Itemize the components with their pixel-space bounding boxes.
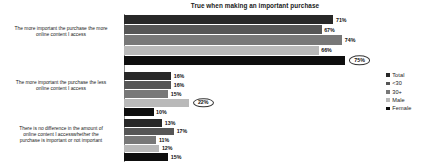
- legend-label: <30: [392, 80, 402, 86]
- category-label: There is no difference in the amount ofo…: [2, 126, 120, 145]
- bar-30-2[interactable]: [124, 128, 174, 136]
- bar-30-0[interactable]: [124, 35, 342, 44]
- legend-swatch-icon: [386, 107, 390, 111]
- bar-30-1[interactable]: [124, 81, 171, 89]
- bar-chart: True when making an important purchase 7…: [0, 0, 435, 168]
- legend-item-30[interactable]: <30: [386, 79, 434, 87]
- bar-value-label: 17%: [177, 128, 188, 134]
- bar-row: 12%: [124, 145, 374, 153]
- legend-label: Total: [392, 72, 404, 78]
- legend-swatch-icon: [386, 98, 390, 102]
- bar-row: 74%: [124, 35, 374, 44]
- bar-value-label: 67%: [324, 27, 335, 33]
- bar-row: 13%: [124, 119, 374, 127]
- bar-row: 75%: [124, 56, 374, 65]
- bar-row: 11%: [124, 136, 374, 144]
- legend-swatch-icon: [386, 82, 390, 86]
- bar-value-label: 16%: [174, 82, 185, 88]
- bar-30-1[interactable]: [124, 90, 168, 98]
- bar-male-0[interactable]: [124, 46, 319, 55]
- chart-legend: Total<3030+MaleFemale: [386, 71, 434, 112]
- bar-row: 15%: [124, 90, 374, 98]
- legend-label: 30+: [392, 89, 402, 95]
- bar-row: 16%: [124, 81, 374, 89]
- legend-item-female[interactable]: Female: [386, 104, 434, 112]
- bar-row: 15%: [124, 153, 374, 161]
- bar-value-label: 11%: [159, 137, 169, 143]
- bar-male-1[interactable]: [124, 99, 189, 107]
- bar-female-0[interactable]: [124, 56, 345, 65]
- bar-female-2[interactable]: [124, 153, 168, 161]
- legend-item-male[interactable]: Male: [386, 96, 434, 104]
- legend-label: Female: [392, 105, 411, 111]
- bar-male-2[interactable]: [124, 145, 159, 153]
- bar-value-label: 74%: [345, 37, 356, 43]
- bar-30-0[interactable]: [124, 25, 322, 34]
- bar-30-2[interactable]: [124, 136, 156, 144]
- category-label-line: online content I access: [2, 86, 120, 92]
- bar-row: 71%: [124, 15, 374, 24]
- legend-item-30[interactable]: 30+: [386, 88, 434, 96]
- bar-row: 16%: [124, 72, 374, 80]
- category-label: The more important the purchase the more…: [2, 26, 120, 38]
- bar-value-label: 13%: [165, 120, 176, 126]
- legend-label: Male: [392, 97, 405, 103]
- bar-value-label: 71%: [336, 17, 347, 23]
- bar-female-1[interactable]: [124, 108, 154, 116]
- bar-value-label: 75%: [349, 56, 370, 65]
- bar-total-2[interactable]: [124, 119, 162, 127]
- chart-title: True when making an important purchase: [120, 2, 390, 9]
- bar-value-label: 12%: [162, 145, 173, 151]
- legend-swatch-icon: [386, 73, 390, 77]
- bar-row: 22%: [124, 99, 374, 107]
- bar-value-label: 15%: [171, 91, 182, 97]
- bar-row: 66%: [124, 46, 374, 55]
- legend-item-total[interactable]: Total: [386, 71, 434, 79]
- bar-value-label: 16%: [174, 73, 185, 79]
- bar-value-label: 10%: [156, 109, 167, 115]
- bar-total-0[interactable]: [124, 15, 333, 24]
- bar-value-label: 22%: [193, 98, 214, 107]
- bar-row: 67%: [124, 25, 374, 34]
- category-label-line: purchase is important or not important: [2, 138, 120, 144]
- bar-row: 10%: [124, 108, 374, 116]
- legend-swatch-icon: [386, 90, 390, 94]
- bar-row: 17%: [124, 128, 374, 136]
- plot-area: 71%67%74%66%75%16%16%15%22%10%13%17%11%1…: [124, 14, 374, 162]
- bar-value-label: 66%: [321, 47, 332, 53]
- bar-value-label: 15%: [171, 154, 182, 160]
- category-label: The more important the purchase the less…: [2, 80, 120, 92]
- bar-total-1[interactable]: [124, 72, 171, 80]
- category-label-line: online content I access: [2, 32, 120, 38]
